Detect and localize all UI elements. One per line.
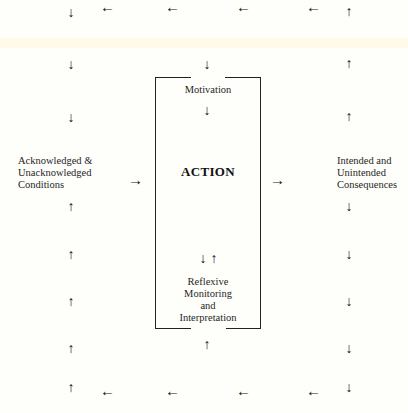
label-line: Intended and xyxy=(337,155,408,167)
label-line: Acknowledged & xyxy=(18,155,128,167)
arrow-left-icon: ← xyxy=(100,384,114,398)
arrow-up-icon: ↑ xyxy=(207,252,221,266)
arrow-left-icon: ← xyxy=(165,384,179,398)
arrow-down-icon: ↓ xyxy=(342,381,356,395)
arrow-up-icon: ↑ xyxy=(64,295,78,309)
box-bottom-edge-right xyxy=(226,328,261,329)
arrow-down-icon: ↓ xyxy=(64,6,78,20)
label-line: and xyxy=(156,300,260,312)
label-line: Unacknowledged xyxy=(18,167,128,179)
arrow-left-icon: ← xyxy=(306,384,320,398)
box-top-edge-right xyxy=(225,77,261,78)
label-line: Monitoring xyxy=(156,288,260,300)
arrow-up-icon: ↑ xyxy=(342,5,356,19)
conditions-label: Acknowledged & Unacknowledged Conditions xyxy=(18,155,128,191)
motivation-label: Motivation xyxy=(156,84,260,96)
label-line: Reflexive xyxy=(156,276,260,288)
arrow-up-icon: ↑ xyxy=(64,200,78,214)
arrow-left-icon: ← xyxy=(306,0,320,14)
arrow-down-icon: ↓ xyxy=(64,58,78,72)
scan-band xyxy=(0,38,408,48)
box-bottom-edge-left xyxy=(155,328,191,329)
reflexive-monitoring-label: Reflexive Monitoring and Interpretation xyxy=(156,276,260,324)
label-line: Conditions xyxy=(18,179,128,191)
arrow-down-icon: ↓ xyxy=(200,58,214,72)
arrow-down-icon: ↓ xyxy=(342,295,356,309)
arrow-down-icon: ↓ xyxy=(342,248,356,262)
arrow-up-icon: ↑ xyxy=(342,57,356,71)
arrow-left-icon: ← xyxy=(100,0,114,14)
arrow-up-icon: ↑ xyxy=(64,248,78,262)
label-line: Unintended xyxy=(337,167,408,179)
box-right-edge xyxy=(260,77,261,329)
consequences-label: Intended and Unintended Consequences xyxy=(337,155,408,191)
arrow-right-icon: → xyxy=(270,173,284,187)
label-line: Consequences xyxy=(337,179,408,191)
arrow-up-icon: ↑ xyxy=(64,342,78,356)
arrow-down-icon: ↓ xyxy=(342,342,356,356)
arrow-left-icon: ← xyxy=(236,384,250,398)
arrow-down-icon: ↓ xyxy=(342,200,356,214)
arrow-left-icon: ← xyxy=(236,0,250,14)
box-top-edge-left xyxy=(155,77,191,78)
label-line: Interpretation xyxy=(156,312,260,324)
arrow-up-icon: ↑ xyxy=(342,110,356,124)
arrow-down-icon: ↓ xyxy=(200,104,214,118)
arrow-left-icon: ← xyxy=(165,0,179,14)
action-title: ACTION xyxy=(156,164,260,180)
arrow-up-icon: ↑ xyxy=(64,381,78,395)
arrow-up-icon: ↑ xyxy=(200,338,214,352)
arrow-right-icon: → xyxy=(128,173,142,187)
arrow-down-icon: ↓ xyxy=(64,111,78,125)
